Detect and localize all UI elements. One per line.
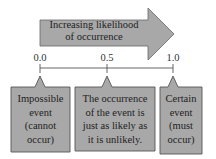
box-line: event — [11, 106, 70, 120]
box-line: The occurrence — [75, 92, 155, 106]
box-line: it is unlikely. — [75, 133, 155, 147]
box-line: Impossible — [11, 92, 70, 106]
box-line: of the event is — [75, 106, 155, 120]
tick-label-05: 0.5 — [100, 52, 113, 63]
arrow-label-line1: Increasing likelihood — [40, 19, 148, 31]
equally-likely-box-text: The occurrence of the event is just as l… — [75, 92, 155, 146]
tick-label-0: 0.0 — [33, 52, 46, 63]
arrow-label-line2: of occurrence — [40, 31, 148, 43]
box-line: (cannot — [11, 119, 70, 133]
box-line: event — [160, 106, 202, 120]
impossible-box-text: Impossible event (cannot occur) — [11, 92, 70, 146]
box-line: occur) — [11, 133, 70, 147]
box-line: just as likely as — [75, 119, 155, 133]
tick-label-1: 1.0 — [166, 52, 179, 63]
box-line: Certain — [160, 92, 202, 106]
likelihood-scale-diagram: Increasing likelihood of occurrence 0.0 … — [0, 0, 216, 159]
certain-box-text: Certain event (must occur) — [160, 92, 202, 146]
arrow-label: Increasing likelihood of occurrence — [40, 19, 148, 43]
box-line: (must — [160, 119, 202, 133]
box-line: occur) — [160, 133, 202, 147]
